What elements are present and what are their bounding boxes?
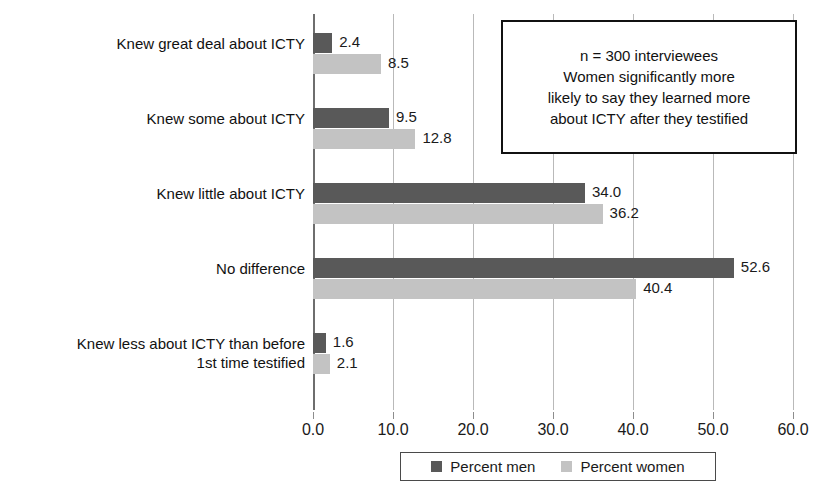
bar-value-label: 52.6 [741,257,770,277]
legend-entry: Percent women [561,458,684,475]
legend-swatch-icon [561,461,572,472]
bar-value-label: 1.6 [333,332,354,352]
tick-label: 20.0 [457,420,488,439]
bar-value-label: 36.2 [610,203,639,223]
bar-value-label: 40.4 [643,278,672,298]
tick-mark [793,412,794,419]
bar-men [313,258,734,278]
tick-label: 30.0 [537,420,568,439]
category-axis-labels: Knew great deal about ICTYKnew some abou… [0,14,305,410]
bar-group: 52.640.4 [313,258,793,300]
bar-women [313,279,636,299]
bar-women [313,204,603,224]
tick-mark [473,412,474,419]
bar-value-label: 34.0 [592,182,621,202]
tick-mark [313,412,314,419]
legend-label: Percent women [580,458,684,475]
bar-women [313,54,381,74]
legend-entry: Percent men [431,458,535,475]
tick-mark [713,412,714,419]
tick-label: 50.0 [697,420,728,439]
tick-mark [633,412,634,419]
bar-value-label: 2.1 [337,353,358,373]
bar-women [313,354,330,374]
legend-swatch-icon [431,461,442,472]
category-label: No difference [5,259,305,278]
tick-label: 10.0 [377,420,408,439]
category-label: Knew great deal about ICTY [5,34,305,53]
bar-men [313,108,389,128]
bar-chart: Knew great deal about ICTYKnew some abou… [0,0,834,495]
bar-value-label: 12.8 [422,128,451,148]
bar-men [313,333,326,353]
bar-value-label: 9.5 [396,107,417,127]
annotation-text: n = 300 interviewees Women significantly… [548,45,751,129]
bar-group: 34.036.2 [313,183,793,225]
category-label: Knew some about ICTY [5,109,305,128]
bar-women [313,129,415,149]
bar-group: 1.62.1 [313,333,793,375]
category-label: Knew less about ICTY than before 1st tim… [5,334,305,372]
category-label: Knew little about ICTY [5,184,305,203]
bar-value-label: 2.4 [339,32,360,52]
tick-mark [553,412,554,419]
bar-men [313,183,585,203]
bar-value-label: 8.5 [388,53,409,73]
tick-mark [393,412,394,419]
bar-men [313,33,332,53]
legend-label: Percent men [450,458,535,475]
tick-label: 60.0 [777,420,808,439]
chart-legend: Percent menPercent women [400,452,716,481]
value-axis: 0.010.020.030.040.050.060.0 [0,412,834,438]
tick-label: 40.0 [617,420,648,439]
tick-label: 0.0 [302,420,324,439]
annotation-box: n = 300 interviewees Women significantly… [501,20,797,154]
